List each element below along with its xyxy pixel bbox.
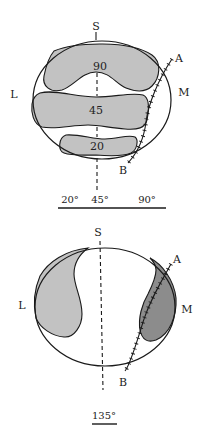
label-superior: S (94, 226, 102, 239)
label-superior: S (92, 20, 100, 33)
label-b: B (119, 164, 127, 177)
diagram-canvas: S 90 45 20 L M A B 20° 45° 90° S (0, 0, 205, 429)
label-b: B (119, 376, 127, 389)
label-medial: M (178, 86, 189, 99)
axis-tick-90: 90° (138, 194, 156, 205)
angle-caption: 135° (92, 410, 116, 421)
top-panel: S 90 45 20 L M A B 20° 45° 90° (10, 20, 189, 208)
bottom-panel: S L M A B 135° (18, 226, 192, 424)
label-a: A (172, 253, 182, 266)
label-medial: M (181, 303, 192, 316)
label-lateral: L (18, 299, 26, 312)
region-90-label: 90 (93, 60, 107, 73)
midline (100, 241, 103, 390)
axis-tick-20: 20° (61, 194, 79, 205)
region-45-label: 45 (89, 104, 103, 117)
axis-tick-45: 45° (91, 194, 109, 205)
label-lateral: L (10, 88, 18, 101)
region-20-label: 20 (90, 140, 104, 153)
label-a: A (174, 52, 184, 65)
